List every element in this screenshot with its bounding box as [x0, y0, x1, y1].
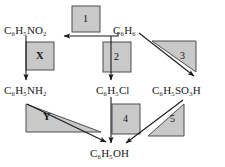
step-x-shape — [26, 42, 54, 70]
step-3-shape — [152, 41, 196, 72]
step-2-shape — [103, 42, 131, 72]
reaction-scheme-diagram: C₆H₅NO₂ C₆H₆ C₆H₅NH₂ C₆H₅Cl C₆H₅SO₃H C₆H… — [0, 0, 225, 167]
step-1-shape — [72, 6, 100, 32]
step-y-shape — [26, 104, 101, 132]
species-label-benzenesulfonic-acid: C₆H₅SO₃H — [152, 85, 201, 96]
species-label-phenol: C₆H₅OH — [90, 148, 129, 159]
species-label-chlorobenzene: C₆H₅Cl — [96, 85, 129, 96]
species-label-benzene: C₆H₆ — [113, 25, 136, 36]
arrow-benzene-to-nitrobenzene — [64, 32, 118, 36]
step-4-shape — [112, 104, 140, 134]
species-label-aniline: C₆H₅NH₂ — [4, 85, 47, 96]
step-5-shape — [148, 104, 184, 136]
species-label-nitrobenzene: C₆H₅NO₂ — [4, 25, 47, 36]
